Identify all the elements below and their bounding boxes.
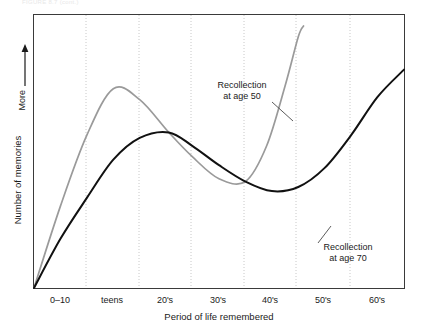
x-tick-label-4: 40's [262, 295, 279, 305]
annotation-age-70-line2: at age 70 [329, 253, 367, 263]
x-tick-label-0: 0–10 [50, 295, 70, 305]
x-axis-title: Period of life remembered [164, 311, 273, 322]
x-tick-label-5: 50's [315, 295, 332, 305]
x-tick-label-2: 20's [157, 295, 174, 305]
figure-container: FIGURE 8.7 (cont.) More Number of memori… [0, 0, 421, 331]
x-tick-label-1: teens [101, 295, 124, 305]
memory-recollection-chart: More Number of memories 0–10 teens 20's … [0, 0, 421, 331]
annotation-age-50-line2: at age 50 [223, 91, 261, 101]
x-tick-label-3: 30's [210, 295, 227, 305]
y-axis-direction-arrow [22, 44, 29, 86]
annotation-age-50-line1: Recollection [217, 80, 266, 90]
y-axis-direction-label: More [17, 90, 27, 111]
more-arrow-head [22, 44, 29, 52]
figure-caption-faint: FIGURE 8.7 (cont.) [22, 0, 79, 5]
x-tick-label-6: 60's [369, 295, 386, 305]
x-axis-tick-labels: 0–10 teens 20's 30's 40's 50's 60's [50, 295, 386, 305]
annotation-age-70-line1: Recollection [323, 242, 372, 252]
y-axis-title: Number of memories [12, 135, 23, 224]
